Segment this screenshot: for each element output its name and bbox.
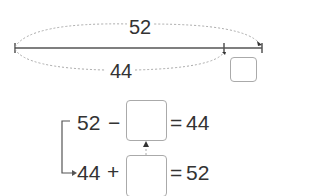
eq1-left: 52 <box>77 113 100 133</box>
eq2-op: + <box>107 162 119 182</box>
eq2-result: 52 <box>186 163 209 183</box>
eq1-answer-box[interactable] <box>126 100 167 141</box>
answer-box[interactable] <box>230 57 257 82</box>
eq2-equals: = <box>170 163 182 183</box>
arrow-up-icon <box>143 141 149 147</box>
eq2-left: 44 <box>77 163 100 183</box>
eq2-answer-box[interactable] <box>126 155 167 196</box>
eq1-result: 44 <box>186 113 209 133</box>
bracket-arrow <box>62 121 72 173</box>
total-label: 52 <box>127 17 153 37</box>
part-label: 44 <box>108 61 134 81</box>
eq1-equals: = <box>170 113 182 133</box>
eq1-op: − <box>108 113 120 133</box>
